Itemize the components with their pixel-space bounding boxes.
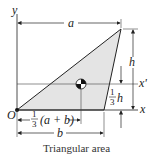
dim-b-label: b [57,126,63,140]
x-axis-label: x [139,102,146,116]
centroid-y-label: 1 3 h [109,87,123,107]
y-axis-label: y [11,3,18,17]
triangle-shape [17,29,121,110]
svg-text:3: 3 [110,97,115,107]
svg-text:3: 3 [32,119,37,129]
dim-a-label: a [68,16,74,30]
svg-text:1: 1 [32,109,37,119]
origin-label: O [7,108,16,122]
svg-text:h: h [117,91,123,105]
dim-h-label: h [129,55,135,69]
centroid-x-label: 1 3 (a + b) [31,109,74,129]
svg-text:(a + b): (a + b) [40,113,74,127]
diagram-caption: Triangular area [43,142,110,154]
x-prime-axis-label: x' [138,76,147,90]
svg-text:1: 1 [110,87,115,97]
triangular-area-diagram: y x x' O a h 1 3 h 1 3 (a + b) [0,0,154,155]
centroid-icon [76,79,86,89]
